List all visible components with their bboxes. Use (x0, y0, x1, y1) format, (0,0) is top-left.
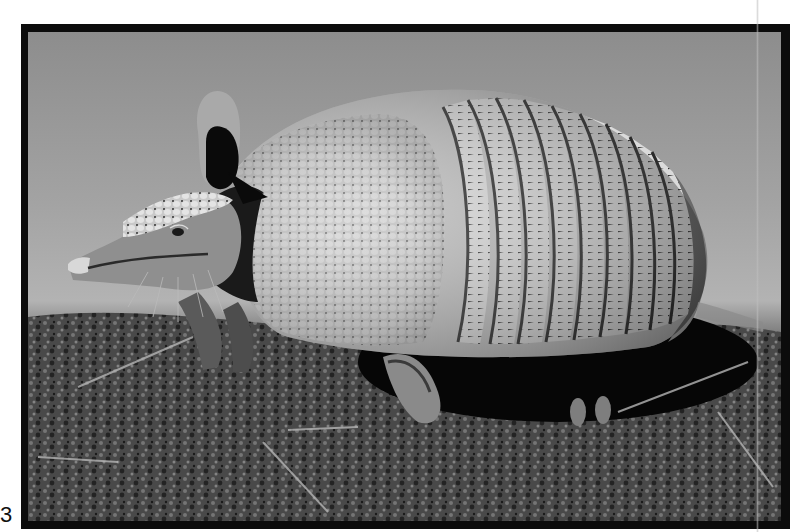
photo-frame (21, 24, 790, 529)
figure-number: 3 (0, 503, 12, 527)
armadillo-illustration (28, 32, 781, 521)
scan-artifact-line (756, 0, 759, 532)
armadillo-photo (28, 32, 781, 521)
